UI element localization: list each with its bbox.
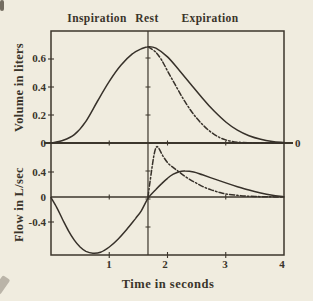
x-tick-4: 4 bbox=[272, 258, 292, 270]
phase-label-rest: Rest bbox=[129, 12, 165, 24]
phase-label-inspiration: Inspiration bbox=[60, 12, 134, 24]
respiration-chart bbox=[0, 0, 313, 301]
x-tick-1: 1 bbox=[99, 258, 119, 270]
volume-solid-curve bbox=[51, 47, 284, 143]
right-zero-label: 0 bbox=[295, 137, 301, 149]
flow-solid-curve bbox=[51, 171, 284, 253]
volume-tick-0: 0 bbox=[16, 137, 46, 149]
phase-label-expiration: Expiration bbox=[174, 12, 246, 24]
flow-axis-label: Flow in L/sec bbox=[12, 160, 27, 250]
x-tick-2: 2 bbox=[155, 258, 175, 270]
respiration-figure: Inspiration Rest Expiration 0.6 0.4 0.2 … bbox=[0, 0, 313, 301]
time-axis-label: Time in seconds bbox=[103, 277, 233, 292]
volume-axis-label: Volume in liters bbox=[12, 38, 27, 138]
volume-dashed-curve bbox=[148, 47, 284, 143]
flow-dashed-curve bbox=[148, 147, 284, 197]
x-tick-3: 3 bbox=[215, 258, 235, 270]
